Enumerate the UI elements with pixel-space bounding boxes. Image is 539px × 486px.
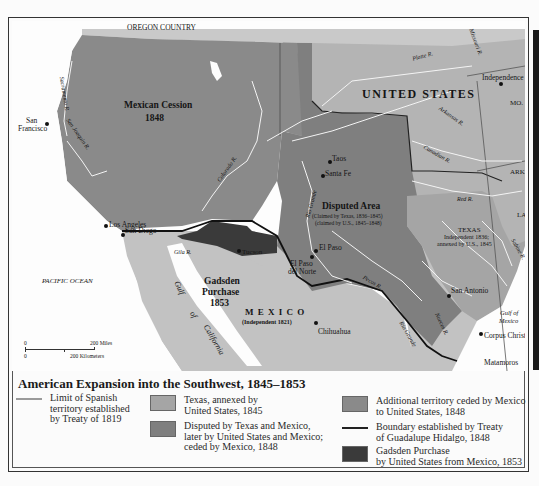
label-texas: TEXAS xyxy=(458,227,481,234)
label-matamoros: Matamoros xyxy=(484,359,518,367)
label-independence: Independence xyxy=(482,74,524,82)
scale-bar: 0 200 Miles 0 200 Kilometers xyxy=(24,341,104,363)
legend-swatch-icon xyxy=(342,396,368,412)
label-chihuahua: Chihuahua xyxy=(318,328,351,336)
label-la: LA. xyxy=(517,212,525,219)
map-canvas: OREGON COUNTRY UNITED STATES Mexican Ces… xyxy=(12,21,525,371)
label-taos: Taos xyxy=(332,155,346,163)
label-san-diego: San Diego xyxy=(125,227,156,235)
scale-km: 200 Kilometers xyxy=(70,354,104,360)
legend-line-icon xyxy=(16,398,42,400)
label-disputed-note-1: (Claimed by Texas, 1836–1845) xyxy=(312,214,383,220)
label-river-gila: Gila R. xyxy=(174,249,191,255)
city-dot-los-angeles xyxy=(104,224,108,228)
label-gadsden-3: 1853 xyxy=(210,299,229,309)
label-san-francisco-2: Francisco xyxy=(18,125,47,133)
label-corpus-christi: Corpus Christi xyxy=(484,332,525,340)
legend-swatch-icon xyxy=(150,395,176,411)
label-mexican-cession: Mexican Cession xyxy=(124,101,192,111)
label-santa-fe: Santa Fe xyxy=(325,170,351,178)
legend-item-texas: Texas, annexed byUnited States, 1845 xyxy=(150,395,263,416)
scale-zero-km: 0 xyxy=(24,354,27,360)
scale-zero-miles: 0 xyxy=(24,341,27,347)
legend-swatch-icon xyxy=(150,421,176,437)
page-edge-shadow xyxy=(533,30,539,370)
legend-item-gadsden: Gadsden Purchaseby United States from Me… xyxy=(342,446,522,467)
label-oregon-country: OREGON COUNTRY xyxy=(127,24,196,32)
label-texas-note-2: annexed by U.S., 1845 xyxy=(437,241,492,247)
label-gulf-of-mexico-1: Gulf of xyxy=(500,310,518,317)
label-ark: ARK. xyxy=(510,169,525,176)
label-mexico-note: (Independent 1821) xyxy=(242,319,292,325)
legend-line-icon xyxy=(342,427,368,429)
label-texas-note-1: Independent 1836; xyxy=(444,234,489,240)
label-el-paso: El Paso xyxy=(319,244,342,252)
label-disputed-area: Disputed Area xyxy=(322,202,380,212)
legend-item-guadalupe-boundary: Boundary established by Treatyof Guadalu… xyxy=(342,422,503,443)
scale-miles: 200 Miles xyxy=(90,341,112,347)
label-united-states: UNITED STATES xyxy=(362,88,475,100)
city-dot-independence xyxy=(499,82,503,86)
label-pacific-ocean: PACIFIC OCEAN xyxy=(42,278,93,285)
label-mexico: M E X I C O xyxy=(245,308,305,317)
label-gadsden-1: Gadsden xyxy=(204,277,240,287)
label-san-antonio: San Antonio xyxy=(451,287,488,295)
map-title: American Expansion into the Southwest, 1… xyxy=(18,376,305,392)
legend-item-disputed: Disputed by Texas and Mexico,later by Un… xyxy=(150,421,323,453)
label-el-paso-norte-2: del Norte xyxy=(288,268,316,276)
legend-swatch-icon xyxy=(342,446,368,462)
legend-item-spanish-limit: Limit of Spanishterritory establishedby … xyxy=(16,393,130,425)
city-dot-el-paso xyxy=(314,249,318,253)
label-mexican-cession-year: 1848 xyxy=(145,114,164,124)
label-river-red: Red R. xyxy=(457,196,473,202)
city-dot-chihuahua xyxy=(314,321,318,325)
label-gulf-of-mexico-2: Mexico xyxy=(499,318,518,325)
legend-item-mexican-cession: Additional territory ceded by Mexicoto U… xyxy=(342,396,525,417)
label-disputed-note-2: (claimed by U.S., 1845–1848) xyxy=(315,221,382,227)
city-dot-tucson xyxy=(237,249,241,253)
label-gadsden-2: Purchase xyxy=(202,288,239,298)
label-tucson: Tucson xyxy=(242,249,262,256)
label-mo: MO. xyxy=(510,100,523,107)
city-dot-corpus-christi xyxy=(479,332,483,336)
region-mexican-cession xyxy=(57,35,302,231)
